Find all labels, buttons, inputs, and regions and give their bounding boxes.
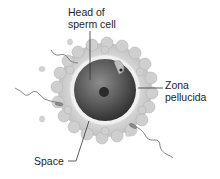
nucleus (99, 87, 109, 97)
label-head-of-sperm-cell: Head of sperm cell (68, 6, 116, 30)
sperm-tail-bottom-right (134, 126, 173, 158)
diagram-canvas: Head of sperm cell Zona pellucida Space (0, 0, 220, 179)
label-zona-pellucida: Zona pellucida (165, 79, 206, 103)
label-space: Space (34, 155, 64, 167)
sperm-head-inside (119, 68, 122, 71)
